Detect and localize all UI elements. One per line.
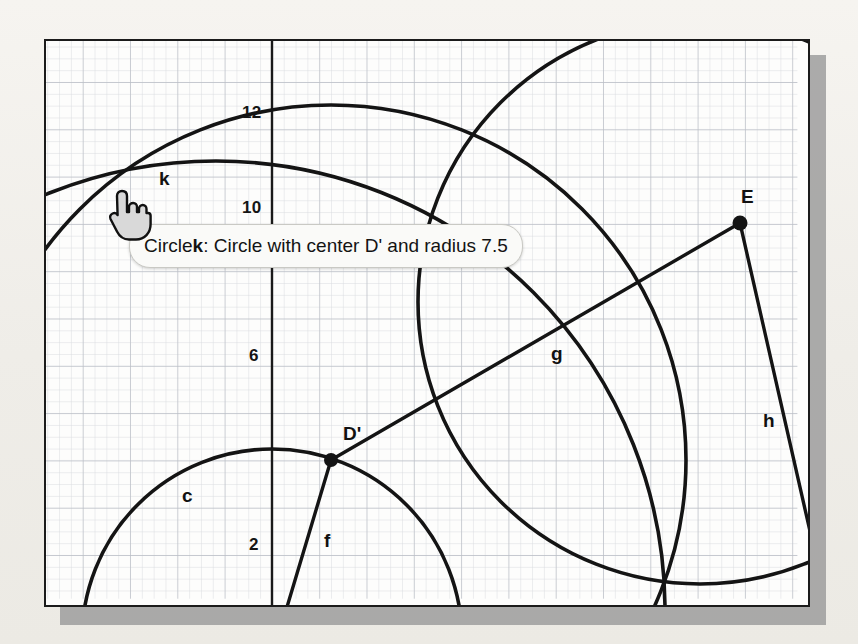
geometry-drawing [46, 41, 808, 605]
y-tick-label-10: 10 [242, 199, 261, 216]
pointing-hand-cursor [108, 188, 152, 242]
label-circle-k: k [159, 169, 170, 188]
label-point-D-prime: D' [343, 424, 361, 443]
segment-h [740, 223, 808, 540]
y-tick-label-12: 12 [242, 104, 261, 121]
object-tooltip: Circle k: Circle with center D' and radi… [129, 224, 523, 268]
circle-bottom-arc [418, 41, 808, 584]
y-tick-label-2: 2 [249, 536, 259, 553]
label-segment-g: g [551, 344, 563, 363]
geometry-applet-canvas[interactable]: 12 10 6 2 k c f g h D' E [44, 39, 810, 607]
y-tick-label-6: 6 [249, 347, 259, 364]
tooltip-object-name: k [193, 235, 204, 257]
point-E [733, 216, 748, 231]
label-segment-h: h [763, 411, 775, 430]
circle-c [82, 449, 462, 605]
circle-k [46, 105, 686, 605]
label-segment-f: f [324, 531, 330, 550]
point-D-prime [324, 453, 338, 467]
label-circle-c: c [182, 486, 193, 505]
label-point-E: E [741, 187, 754, 206]
tooltip-suffix: : Circle with center D' and radius 7.5 [203, 235, 508, 257]
